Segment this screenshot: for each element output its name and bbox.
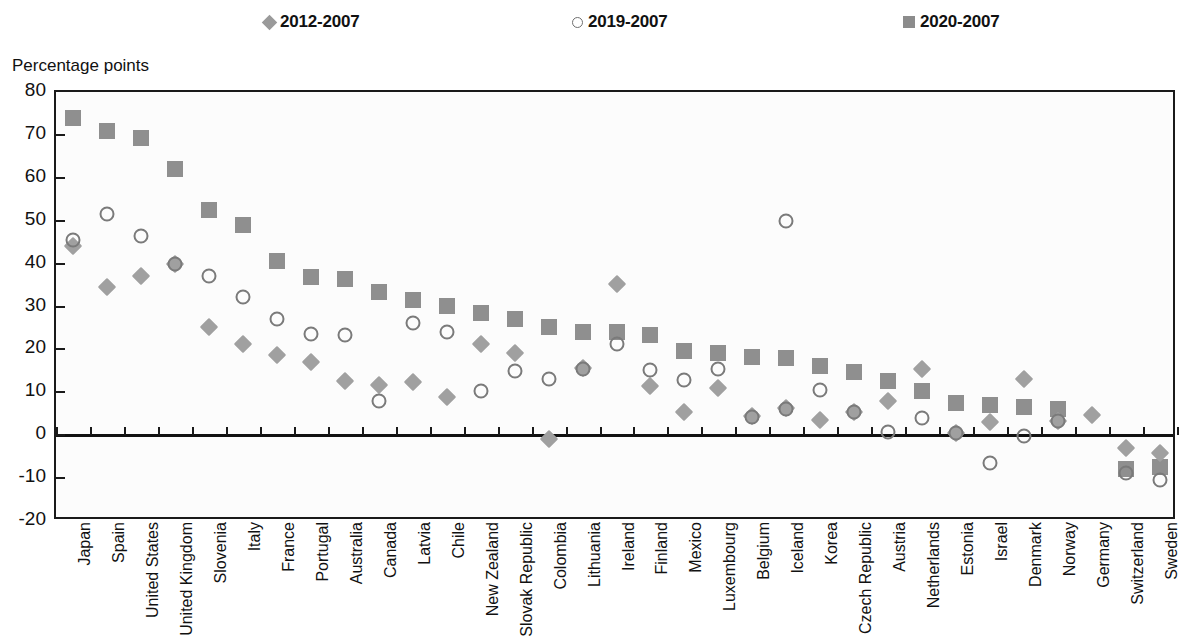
x-axis-label-korea: Korea: [824, 522, 840, 565]
x-axis-label-united-kingdom: United Kingdom: [179, 522, 195, 636]
data-point-2019-2007: [405, 316, 420, 331]
x-axis-tick-mark: [362, 427, 364, 435]
x-axis-tick-mark: [939, 427, 941, 435]
data-point-2019-2007: [303, 327, 318, 342]
x-axis-label-slovak-republic: Slovak Republic: [519, 522, 535, 637]
data-point-2012-2007: [879, 392, 897, 410]
filled-square-marker-icon: [903, 16, 915, 28]
data-point-2012-2007: [641, 377, 659, 395]
y-axis-tick-label: 40: [0, 251, 46, 273]
y-axis-title: Percentage points: [12, 56, 149, 76]
x-axis-label-new-zealand: New Zealand: [485, 522, 501, 616]
x-axis-label-iceland: Iceland: [790, 522, 806, 574]
x-axis-label-denmark: Denmark: [1028, 522, 1044, 587]
data-point-2019-2007: [371, 394, 386, 409]
x-axis-label-canada: Canada: [383, 522, 399, 578]
x-axis-label-united-states: United States: [145, 522, 161, 618]
data-point-2012-2007: [505, 344, 523, 362]
x-axis-tick-mark: [158, 427, 160, 435]
x-axis-label-spain: Spain: [111, 522, 127, 563]
y-axis-tick-label: -20: [0, 508, 46, 530]
x-axis-tick-mark: [701, 427, 703, 435]
data-point-2012-2007: [336, 372, 354, 390]
data-point-2012-2007: [98, 278, 116, 296]
data-point-2019-2007: [813, 382, 828, 397]
y-axis-tick-label: 50: [0, 208, 46, 230]
chart-figure: 2012-2007 2019-2007 2020-2007 Percentage…: [0, 0, 1179, 638]
data-point-2019-2007: [1017, 429, 1032, 444]
data-point-2019-2007: [1119, 466, 1134, 481]
data-point-2012-2007: [437, 388, 455, 406]
data-point-2019-2007: [439, 325, 454, 340]
data-point-2019-2007: [473, 384, 488, 399]
data-point-2020-2007: [1016, 399, 1032, 415]
data-point-2019-2007: [711, 362, 726, 377]
x-axis-label-switzerland: Switzerland: [1130, 522, 1146, 605]
data-point-2019-2007: [847, 405, 862, 420]
x-axis-tick-mark: [56, 427, 58, 435]
data-point-2020-2007: [744, 349, 760, 365]
y-axis-tick-mark: [56, 348, 65, 350]
y-axis-tick-label: 10: [0, 379, 46, 401]
data-point-2012-2007: [471, 335, 489, 353]
x-axis-label-colombia: Colombia: [553, 522, 569, 590]
x-axis-tick-mark: [192, 427, 194, 435]
data-point-2020-2007: [371, 284, 387, 300]
x-axis-label-norway: Norway: [1062, 522, 1078, 576]
x-axis-tick-mark: [124, 427, 126, 435]
data-point-2020-2007: [65, 110, 81, 126]
data-point-2019-2007: [235, 289, 250, 304]
data-point-2012-2007: [1117, 439, 1135, 457]
data-point-2012-2007: [913, 360, 931, 378]
data-point-2019-2007: [609, 336, 624, 351]
data-point-2020-2007: [642, 327, 658, 343]
legend-item-2019-2007: 2019-2007: [572, 12, 668, 32]
x-axis-tick-mark: [633, 427, 635, 435]
data-point-2020-2007: [710, 345, 726, 361]
y-axis-tick-label: 60: [0, 165, 46, 187]
x-axis-label-czech-republic: Czech Republic: [858, 522, 874, 634]
data-point-2020-2007: [982, 397, 998, 413]
data-point-2012-2007: [1083, 406, 1101, 424]
x-axis-tick-mark: [1109, 427, 1111, 435]
legend-label-2: 2020-2007: [920, 12, 1000, 32]
data-point-2012-2007: [607, 275, 625, 293]
data-point-2012-2007: [675, 402, 693, 420]
x-axis-tick-mark: [294, 427, 296, 435]
data-point-2019-2007: [881, 424, 896, 439]
data-point-2020-2007: [269, 253, 285, 269]
y-axis-tick-label: 80: [0, 79, 46, 101]
data-point-2020-2007: [676, 343, 692, 359]
x-axis-tick-mark: [396, 427, 398, 435]
x-axis-label-mexico: Mexico: [688, 522, 704, 573]
y-axis-tick-label: -10: [0, 465, 46, 487]
data-point-2020-2007: [235, 217, 251, 233]
zero-baseline: [56, 434, 1173, 437]
data-point-2019-2007: [541, 372, 556, 387]
data-point-2020-2007: [575, 324, 591, 340]
data-point-2012-2007: [132, 267, 150, 285]
x-axis-tick-mark: [1041, 427, 1043, 435]
data-point-2020-2007: [778, 350, 794, 366]
data-point-2020-2007: [880, 373, 896, 389]
x-axis-tick-mark: [90, 427, 92, 435]
data-point-2019-2007: [983, 456, 998, 471]
x-axis-tick-mark: [464, 427, 466, 435]
y-axis-tick-label: 20: [0, 336, 46, 358]
x-axis-label-sweden: Sweden: [1164, 522, 1179, 580]
y-axis-tick-mark: [56, 263, 65, 265]
data-point-2019-2007: [201, 269, 216, 284]
x-axis-label-estonia: Estonia: [960, 522, 976, 575]
x-axis-label-israel: Israel: [994, 522, 1010, 561]
x-axis-label-luxembourg: Luxembourg: [722, 522, 738, 611]
x-axis-tick-mark: [735, 427, 737, 435]
data-point-2019-2007: [915, 410, 930, 425]
data-point-2020-2007: [948, 395, 964, 411]
data-point-2019-2007: [745, 409, 760, 424]
data-point-2020-2007: [846, 364, 862, 380]
data-point-2020-2007: [99, 123, 115, 139]
x-axis-tick-mark: [1007, 427, 1009, 435]
x-axis-label-austria: Austria: [892, 522, 908, 572]
x-axis-label-ireland: Ireland: [621, 522, 637, 571]
y-axis-tick-mark: [56, 306, 65, 308]
